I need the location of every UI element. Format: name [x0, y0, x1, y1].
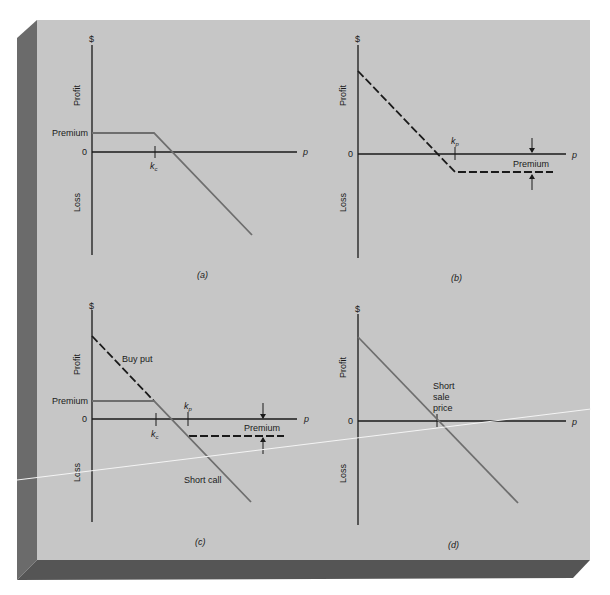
x-axis-p-label: p [302, 147, 308, 157]
loss-label: Loss [338, 192, 348, 212]
short-sale-label-line3: price [433, 403, 453, 413]
loss-label: Loss [338, 463, 348, 483]
y-axis-dollar-label: $ [355, 304, 360, 314]
premium-label-left: Premium [52, 396, 88, 406]
panel-caption: (a) [197, 270, 208, 280]
profit-label: Profit [338, 84, 348, 106]
short-sale-label-line2: sale [433, 392, 450, 402]
zero-label: 0 [348, 416, 353, 426]
card-side-left [17, 20, 37, 580]
x-axis-p-label: p [303, 414, 309, 424]
profit-label: Profit [72, 353, 82, 375]
x-axis-p-label: p [571, 150, 577, 160]
card-frame [17, 20, 590, 580]
buy-put-label: Buy put [122, 354, 153, 364]
y-axis-dollar-label: $ [355, 34, 360, 44]
panel-caption: (d) [448, 540, 459, 550]
short-sale-label-line1: Short [433, 381, 455, 391]
panel-caption: (b) [451, 273, 462, 283]
zero-label: 0 [82, 414, 87, 424]
zero-label: 0 [82, 147, 87, 157]
loss-label: Loss [72, 192, 82, 212]
profit-label: Profit [72, 84, 82, 106]
premium-label-right: Premium [244, 423, 280, 433]
premium-label: Premium [52, 128, 88, 138]
panel-caption: (c) [195, 537, 206, 547]
y-axis-dollar-label: $ [89, 34, 94, 44]
short-call-label: Short call [184, 475, 222, 485]
card-face [37, 20, 590, 560]
y-axis-dollar-label: $ [89, 301, 94, 311]
x-axis-p-label: p [571, 417, 577, 427]
profit-label: Profit [338, 356, 348, 378]
premium-label: Premium [513, 159, 549, 169]
figure-card: $ Profit Loss Premium 0 p kc (a) $ Profi… [0, 0, 610, 595]
card-side-bottom [17, 560, 590, 580]
zero-label: 0 [348, 149, 353, 159]
